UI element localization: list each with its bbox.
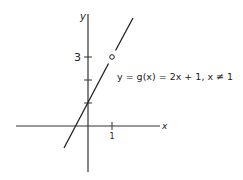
hole-point-marker [110, 55, 115, 60]
x-tick-label-1: 1 [110, 132, 115, 141]
equation-label: y = g(x) = 2x + 1, x ≠ 1 [117, 71, 233, 82]
x-axis-label: x [161, 121, 168, 131]
function-graph: y x 3 1 y = g(x) = 2x + 1, x ≠ 1 [0, 0, 243, 180]
y-tick-label-3: 3 [74, 51, 81, 64]
y-axis-label: y [79, 11, 87, 22]
function-line-upper [116, 18, 134, 51]
function-line-lower [64, 64, 109, 149]
